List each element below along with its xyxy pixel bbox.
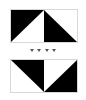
down-triangle-icon xyxy=(30,49,34,52)
bottom-panel-graphic xyxy=(11,60,77,92)
bottom-left-cell-black-triangle xyxy=(11,60,44,92)
top-panel xyxy=(10,9,78,43)
top-left-cell-black-triangle xyxy=(11,10,44,42)
bottom-panel xyxy=(10,59,78,93)
top-right-cell-black-triangle xyxy=(44,10,77,42)
bottom-right-cell-black-triangle xyxy=(44,60,77,92)
down-triangle-icon xyxy=(52,49,56,52)
continuation-marker xyxy=(30,47,56,53)
down-triangle-icon xyxy=(45,49,49,52)
top-panel-graphic xyxy=(11,10,77,42)
down-triangle-icon xyxy=(37,49,41,52)
